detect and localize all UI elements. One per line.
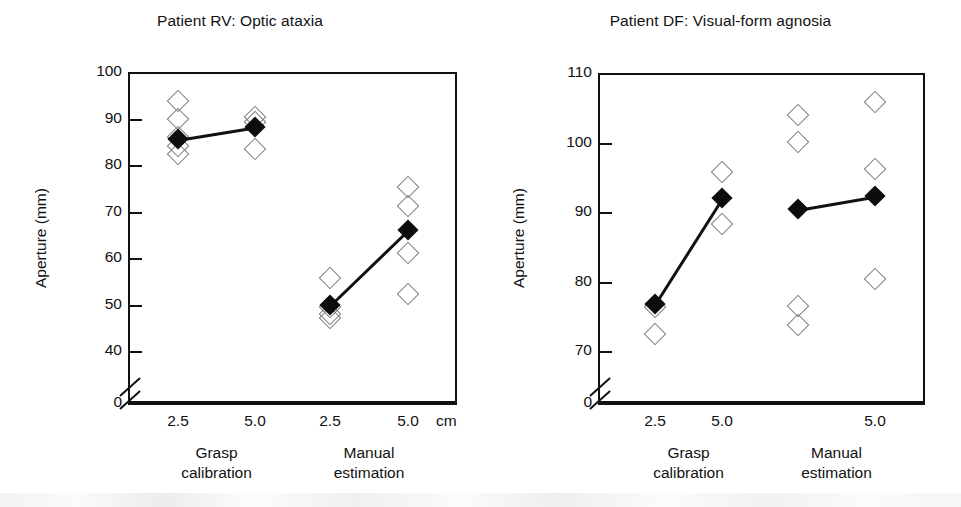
group-label-line1: Manual	[767, 443, 907, 463]
y-tick-right-80	[598, 282, 612, 284]
y-tick-label-right-110: 110	[536, 63, 592, 81]
y-tick-left-70	[128, 212, 142, 214]
y-tick-label-left-60: 60	[66, 248, 122, 266]
panel-title-right: Patient DF: Visual-form agnosia	[480, 12, 961, 30]
x-tick-label-left-1: 5.0	[215, 412, 295, 430]
x-axis-line-right	[598, 403, 925, 405]
panel-patient-rv: Patient RV: Optic ataxia Aperture (mm) 0…	[0, 0, 480, 507]
y-tick-label-left-90: 90	[66, 109, 122, 127]
y-tick-right-70	[598, 351, 612, 353]
x-tick-label-right-1: 5.0	[682, 412, 762, 430]
y-tick-label-right-80: 80	[536, 272, 592, 290]
group-label-line2: calibration	[147, 463, 287, 483]
y-tick-label-left-80: 80	[66, 155, 122, 173]
panel-patient-df: Patient DF: Visual-form agnosia Aperture…	[480, 0, 961, 507]
group-label-right-1: Manualestimation	[767, 443, 907, 483]
x-tick-label-left-0: 2.5	[138, 412, 218, 430]
y-tick-right-90	[598, 212, 612, 214]
x-tick-label-right-3: 5.0	[835, 412, 915, 430]
y-axis-label-left: Aperture (mm)	[32, 188, 50, 288]
y-tick-left-40	[128, 351, 142, 353]
y-tick-label-right-90: 90	[536, 202, 592, 220]
scan-artifact-strip	[0, 493, 961, 507]
group-label-line1: Grasp	[619, 443, 759, 463]
y-tick-label-left-0: 0	[66, 393, 122, 411]
group-label-line1: Grasp	[147, 443, 287, 463]
y-tick-label-right-70: 70	[536, 341, 592, 359]
group-label-line2: estimation	[767, 463, 907, 483]
figure-root: Patient RV: Optic ataxia Aperture (mm) 0…	[0, 0, 961, 507]
panel-title-left: Patient RV: Optic ataxia	[0, 12, 480, 30]
y-tick-label-right-0: 0	[536, 393, 592, 411]
y-tick-label-left-70: 70	[66, 202, 122, 220]
x-tick-label-left-2: 2.5	[290, 412, 370, 430]
plot-frame-right	[598, 73, 925, 403]
group-label-left-1: Manualestimation	[299, 443, 439, 483]
y-tick-label-left-100: 100	[66, 62, 122, 80]
group-label-line2: estimation	[299, 463, 439, 483]
y-tick-label-left-50: 50	[66, 295, 122, 313]
y-tick-left-80	[128, 165, 142, 167]
y-tick-left-50	[128, 305, 142, 307]
group-label-left-0: Graspcalibration	[147, 443, 287, 483]
x-unit-label-left: cm	[436, 412, 457, 430]
y-tick-right-100	[598, 143, 612, 145]
y-tick-left-60	[128, 258, 142, 260]
y-axis-label-right: Aperture (mm)	[510, 188, 528, 288]
group-label-line1: Manual	[299, 443, 439, 463]
x-axis-line-left	[128, 403, 457, 405]
y-tick-label-left-40: 40	[66, 341, 122, 359]
y-tick-left-90	[128, 119, 142, 121]
group-label-right-0: Graspcalibration	[619, 443, 759, 483]
group-label-line2: calibration	[619, 463, 759, 483]
y-tick-label-right-100: 100	[536, 133, 592, 151]
